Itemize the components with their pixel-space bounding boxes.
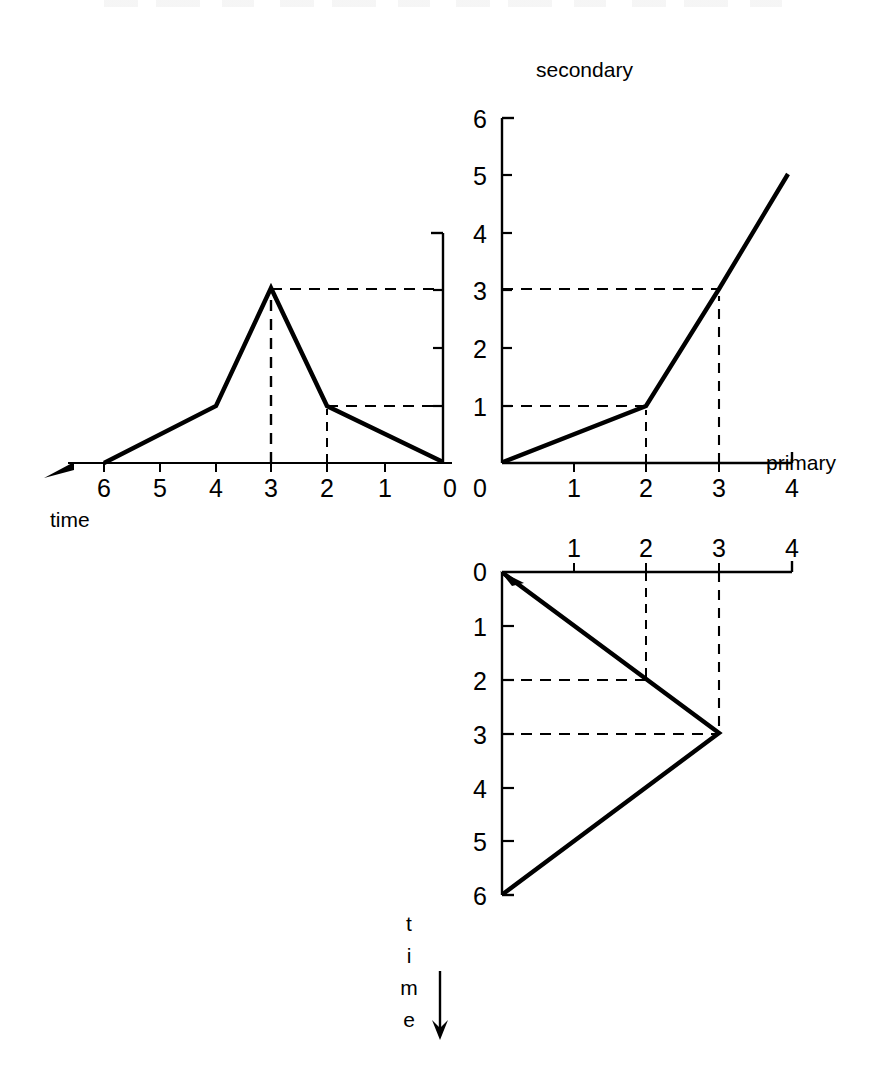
time-vert-tick-label-1: 1 (473, 613, 487, 641)
panel-upper-left: 6 5 4 3 2 1 0 time (44, 233, 457, 531)
time-axis-label: time (50, 508, 90, 531)
time-tick-label-1: 1 (378, 474, 392, 502)
time-letter-i: i (407, 944, 412, 967)
panel-upper-right: 6 5 4 3 2 1 0 1 2 3 4 secondary primary (473, 58, 836, 502)
lower-origin-arrow (500, 571, 524, 586)
time-vert-tick-label-6: 6 (473, 882, 487, 910)
time-vert-tick-label-3: 3 (473, 721, 487, 749)
time-letter-m: m (400, 976, 418, 999)
upper-right-projection-lines (502, 289, 719, 463)
time-tick-label-0: 0 (443, 474, 457, 502)
figure-root: 6 5 4 3 2 1 0 time (0, 0, 895, 1070)
curve-secondary-vs-primary (503, 174, 788, 462)
time-tick-label-2: 2 (320, 474, 334, 502)
time-letter-t: t (406, 912, 412, 935)
primary-lower-tick-label-2: 2 (639, 534, 653, 562)
curve-primary-vs-time (503, 573, 719, 894)
time-tick-label-5: 5 (153, 474, 167, 502)
time-tick-label-3: 3 (264, 474, 278, 502)
time-vert-tick-label-4: 4 (473, 775, 487, 803)
time-vert-tick-label-0: 0 (473, 558, 487, 586)
primary-upper-tick-label-2: 2 (639, 474, 653, 502)
time-tick-label-4: 4 (209, 474, 223, 502)
primary-upper-tick-label-3: 3 (712, 474, 726, 502)
time-vert-tick-label-5: 5 (473, 828, 487, 856)
secondary-tick-label-4: 4 (473, 220, 487, 248)
secondary-tick-label-5: 5 (473, 162, 487, 190)
nomogram-figure: 6 5 4 3 2 1 0 time (0, 0, 895, 1070)
upper-left-projection-lines (271, 289, 443, 463)
secondary-tick-label-3: 3 (473, 277, 487, 305)
primary-lower-tick-label-1: 1 (567, 534, 581, 562)
primary-upper-tick-label-4: 4 (785, 474, 799, 502)
secondary-axis-label: secondary (536, 58, 633, 81)
time-axis-arrow-left (44, 462, 74, 478)
primary-lower-tick-label-3: 3 (712, 534, 726, 562)
primary-upper-tick-label-1: 1 (567, 474, 581, 502)
curve-secondary-vs-time (104, 288, 443, 463)
time-vertical-caption: t i m e (400, 912, 448, 1040)
primary-axis-lower (502, 561, 792, 572)
time-letter-e: e (403, 1008, 415, 1031)
secondary-axis-right (502, 118, 514, 463)
secondary-tick-label-2: 2 (473, 335, 487, 363)
primary-axis-label: primary (766, 451, 837, 474)
time-vert-tick-label-2: 2 (473, 667, 487, 695)
secondary-tick-label-6: 6 (473, 105, 487, 133)
primary-lower-tick-label-4: 4 (785, 534, 799, 562)
secondary-tick-label-0: 0 (473, 474, 487, 502)
time-tick-label-6: 6 (97, 474, 111, 502)
secondary-tick-label-1: 1 (473, 393, 487, 421)
panel-lower: 1 2 3 4 0 1 2 3 4 5 6 (473, 534, 799, 910)
secondary-axis-left (431, 233, 443, 463)
